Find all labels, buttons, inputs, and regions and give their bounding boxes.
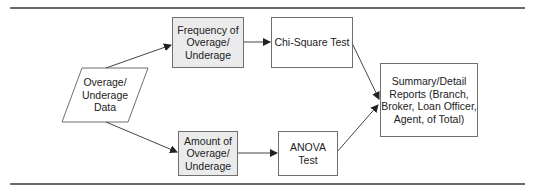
edge-input-to-frequency xyxy=(106,45,171,68)
node-chi-square-test: Chi-Square Test xyxy=(271,17,353,68)
node-frequency: Frequency of Overage/ Underage xyxy=(172,17,244,68)
node-summary-reports: Summary/Detail Reports (Branch, Broker, … xyxy=(380,63,478,137)
edge-anova-to-summary xyxy=(337,105,378,152)
node-input-label: Overage/ Underage Data xyxy=(68,68,142,122)
edge-chi-square-to-summary xyxy=(352,43,379,99)
edge-input-to-amount xyxy=(106,122,177,152)
node-amount: Amount of Overage/ Underage xyxy=(178,131,238,176)
node-anova-test: ANOVA Test xyxy=(278,131,338,176)
